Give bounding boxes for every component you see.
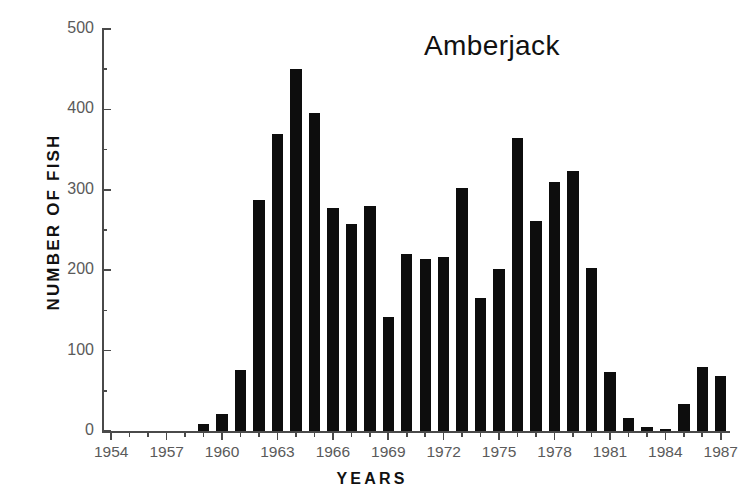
bar	[456, 188, 467, 431]
x-tick-mark	[535, 431, 537, 437]
x-tick-mark	[480, 431, 482, 437]
x-tick-mark	[406, 431, 408, 437]
bar	[549, 182, 560, 431]
x-tick-mark	[609, 431, 611, 440]
x-tick-mark	[665, 431, 667, 440]
y-tick-label: 300	[67, 180, 94, 198]
x-tick-mark	[221, 431, 223, 440]
x-tick-mark	[129, 431, 131, 437]
bar	[475, 298, 486, 431]
bar	[512, 138, 523, 431]
x-tick-mark	[701, 431, 703, 437]
x-tick-mark	[332, 431, 334, 440]
x-tick-mark	[203, 431, 205, 437]
bar	[530, 221, 541, 431]
x-tick-mark	[147, 431, 149, 437]
bar	[623, 418, 634, 431]
bar	[272, 134, 283, 431]
bar	[346, 224, 357, 431]
x-tick-mark	[110, 431, 112, 440]
x-tick-mark	[295, 431, 297, 437]
x-tick-label: 1975	[482, 443, 516, 461]
x-tick-label: 1954	[94, 443, 128, 461]
x-tick-mark	[369, 431, 371, 437]
chart-figure: NUMBER OF FISH YEARS Amberjack 010020030…	[0, 0, 744, 503]
bar	[660, 429, 671, 431]
bar	[309, 113, 320, 431]
bar	[364, 206, 375, 431]
x-tick-mark	[240, 431, 242, 437]
x-tick-label: 1978	[537, 443, 571, 461]
bar	[235, 370, 246, 431]
x-tick-label: 1957	[149, 443, 183, 461]
x-tick-mark	[572, 431, 574, 437]
x-tick-label: 1969	[371, 443, 405, 461]
plot-area: 0100200300400500 19541957196019631966196…	[102, 29, 730, 432]
y-tick-label: 500	[67, 19, 94, 37]
bar	[567, 171, 578, 431]
x-axis-line	[102, 431, 730, 433]
x-tick-mark	[461, 431, 463, 437]
bar	[697, 367, 708, 431]
bar	[604, 372, 615, 431]
bar	[715, 376, 726, 431]
x-tick-label: 1984	[648, 443, 682, 461]
bar	[401, 254, 412, 431]
y-tick-label: 100	[67, 341, 94, 359]
bar	[198, 424, 209, 431]
y-tick-label: 400	[67, 99, 94, 117]
bar	[438, 257, 449, 431]
x-tick-mark	[351, 431, 353, 437]
bar	[493, 269, 504, 431]
x-tick-mark	[387, 431, 389, 440]
x-tick-mark	[277, 431, 279, 440]
x-tick-label: 1981	[593, 443, 627, 461]
x-tick-label: 1966	[316, 443, 350, 461]
x-tick-mark	[628, 431, 630, 437]
x-tick-mark	[184, 431, 186, 437]
bar-series	[102, 29, 730, 431]
x-tick-mark	[314, 431, 316, 437]
bar	[641, 427, 652, 431]
bar	[383, 317, 394, 431]
x-tick-mark	[720, 431, 722, 440]
x-tick-label: 1972	[426, 443, 460, 461]
x-tick-label: 1960	[205, 443, 239, 461]
y-tick-label: 200	[67, 260, 94, 278]
x-tick-mark	[683, 431, 685, 437]
bar	[420, 259, 431, 431]
y-axis-label: NUMBER OF FISH	[44, 72, 64, 372]
x-tick-mark	[554, 431, 556, 440]
x-tick-mark	[443, 431, 445, 440]
x-tick-mark	[424, 431, 426, 437]
x-tick-label: 1963	[260, 443, 294, 461]
bar	[216, 414, 227, 431]
x-tick-mark	[258, 431, 260, 437]
y-tick-label: 0	[85, 421, 94, 439]
x-axis-label: YEARS	[0, 470, 744, 488]
bar	[253, 200, 264, 431]
x-tick-mark	[498, 431, 500, 440]
x-tick-mark	[646, 431, 648, 437]
bar	[586, 268, 597, 431]
bar	[290, 69, 301, 431]
x-tick-mark	[591, 431, 593, 437]
bar	[678, 404, 689, 431]
bar	[327, 208, 338, 432]
x-tick-label: 1987	[704, 443, 738, 461]
x-tick-mark	[166, 431, 168, 440]
x-tick-mark	[517, 431, 519, 437]
